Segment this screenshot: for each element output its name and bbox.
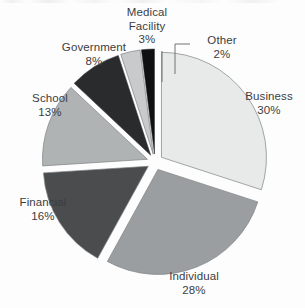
pie-label-business-name: Business: [237, 90, 301, 104]
pie-label-other: Other 2%: [196, 34, 248, 61]
pie-label-government-value: 8%: [52, 55, 136, 69]
pie-label-financial: Financial 16%: [8, 196, 78, 223]
pie-label-business-value: 30%: [237, 104, 301, 118]
pie-label-individual-value: 28%: [158, 284, 230, 298]
pie-label-other-value: 2%: [196, 48, 248, 62]
pie-label-individual: Individual 28%: [158, 270, 230, 297]
pie-label-business: Business 30%: [237, 90, 301, 117]
pie-label-medical-facility-name-line1: Medical: [112, 6, 182, 20]
pie-label-financial-value: 16%: [8, 210, 78, 224]
pie-label-school-value: 13%: [19, 106, 81, 120]
pie-chart: Medical Facility 3% Other 2% Government …: [0, 0, 305, 308]
pie-label-school: School 13%: [19, 92, 81, 119]
pie-label-financial-name: Financial: [8, 196, 78, 210]
pie-label-government: Government 8%: [52, 41, 136, 68]
pie-slice-business[interactable]: [161, 52, 266, 189]
pie-label-other-name: Other: [196, 34, 248, 48]
pie-label-government-name: Government: [52, 41, 136, 55]
pie-label-medical-facility-name-line2: Facility: [112, 20, 182, 34]
pie-label-individual-name: Individual: [158, 270, 230, 284]
pie-label-school-name: School: [19, 92, 81, 106]
